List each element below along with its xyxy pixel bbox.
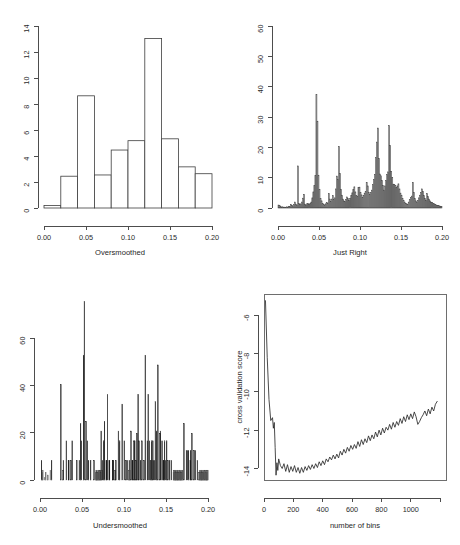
x-tick-label: 0.10 (353, 233, 367, 242)
hist-bar (41, 460, 42, 480)
undersmoothed-x-axis: 0.000.050.100.150.20 (33, 498, 215, 514)
x-tick-label: 0.15 (163, 233, 177, 242)
hist-bar (102, 460, 103, 480)
hist-bar (150, 460, 151, 480)
cv-y-axis-title: cross validation score (235, 350, 244, 423)
cv-y-axis: -6-8-10-12-14 (242, 314, 258, 476)
cv-plot-border (264, 294, 446, 480)
hist-bar (103, 441, 104, 480)
hist-bar (78, 96, 95, 208)
y-tick-label: 0 (18, 481, 27, 485)
hist-bar (50, 470, 51, 480)
just-right-x-axis: 0.000.050.100.150.20 (271, 226, 449, 242)
hist-bar (441, 207, 442, 208)
hist-bar (194, 451, 195, 480)
hist-bar (134, 441, 135, 480)
hist-bar (86, 421, 87, 480)
hist-bar (184, 424, 185, 480)
hist-bar (156, 431, 157, 480)
hist-bar (131, 431, 132, 480)
hist-bar (128, 141, 145, 208)
hist-bar (145, 38, 162, 208)
hist-bar (126, 460, 127, 480)
hist-bar (45, 473, 46, 480)
hist-bar (77, 460, 78, 480)
y-tick-label: -6 (242, 314, 251, 321)
hist-bar (124, 441, 125, 480)
hist-bar (160, 431, 161, 480)
hist-bar (138, 394, 139, 480)
hist-bar (163, 460, 164, 480)
hist-bar (147, 441, 148, 480)
x-tick-label: 0.15 (159, 505, 173, 514)
hist-bar (192, 434, 193, 481)
hist-bar (69, 460, 70, 480)
hist-bar (44, 478, 45, 480)
oversmoothed-bars (44, 38, 212, 208)
y-tick-label: 4 (22, 157, 31, 161)
hist-bar (51, 460, 52, 480)
hist-bar (195, 451, 196, 480)
panel-just-right: 0102030405060 0.000.050.100.150.20 Just … (230, 0, 460, 272)
hist-bar (116, 460, 117, 480)
x-tick-label: 0.20 (205, 233, 219, 242)
x-tick-label: 0.00 (271, 233, 285, 242)
hist-bar (164, 441, 165, 480)
hist-bar (139, 441, 140, 480)
x-tick-label: 1000 (403, 505, 419, 514)
y-tick-label: 20 (256, 146, 265, 154)
cv-x-axis-title: number of bins (330, 521, 380, 530)
x-tick-label: 400 (317, 505, 329, 514)
hist-bar (132, 460, 133, 480)
hist-bar (145, 355, 146, 480)
y-tick-label: 60 (18, 337, 27, 345)
panel-oversmoothed: 02468101214 0.000.050.100.150.20 Oversmo… (0, 0, 230, 272)
y-tick-label: 10 (22, 77, 31, 85)
hist-bar (149, 441, 150, 480)
hist-bar (87, 441, 88, 480)
just-right-x-axis-title: Just Right (333, 248, 368, 257)
hist-bar (136, 460, 137, 480)
hist-bar (127, 460, 128, 480)
hist-bar (104, 421, 105, 480)
hist-bar (63, 460, 64, 480)
hist-bar (169, 460, 170, 480)
hist-bar (151, 441, 152, 480)
hist-bar (182, 470, 183, 480)
y-tick-label: 0 (22, 209, 31, 213)
hist-bar (61, 176, 78, 208)
y-tick-label: 8 (22, 105, 31, 109)
undersmoothed-bars (41, 301, 208, 480)
hist-bar (101, 431, 102, 480)
hist-bar (111, 150, 128, 208)
x-tick-label: 0.10 (121, 233, 135, 242)
y-tick-label: 40 (18, 384, 27, 392)
x-tick-label: 600 (346, 505, 358, 514)
x-tick-label: 0.20 (201, 505, 215, 514)
y-tick-label: 10 (256, 176, 265, 184)
panel-cv-score-svg: -6-8-10-12-14 02004006008001000 number o… (230, 272, 460, 545)
hist-bar (195, 174, 212, 208)
y-tick-label: 6 (22, 131, 31, 135)
hist-bar (106, 460, 107, 480)
hist-bar (66, 441, 67, 480)
oversmoothed-y-axis: 02468101214 (22, 25, 38, 213)
hist-bar (162, 139, 179, 208)
hist-bar (61, 385, 62, 480)
hist-bar (43, 470, 44, 480)
x-tick-label: 0.05 (312, 233, 326, 242)
y-tick-label: 0 (256, 209, 265, 213)
hist-bar (122, 404, 123, 480)
hist-bar (84, 301, 85, 480)
hist-bar (119, 441, 120, 480)
y-tick-label: 30 (256, 116, 265, 124)
panel-oversmoothed-svg: 02468101214 0.000.050.100.150.20 Oversmo… (0, 0, 230, 273)
y-tick-label: 12 (22, 51, 31, 59)
oversmoothed-x-axis: 0.000.050.100.150.20 (37, 226, 219, 242)
hist-bar (186, 451, 187, 480)
panel-undersmoothed-svg: 0204060 0.000.050.100.150.20 Undersmooth… (0, 272, 230, 545)
hist-bar (208, 470, 209, 480)
hist-bar (166, 441, 167, 480)
x-tick-label: 0.05 (75, 505, 89, 514)
hist-bar (137, 434, 138, 481)
